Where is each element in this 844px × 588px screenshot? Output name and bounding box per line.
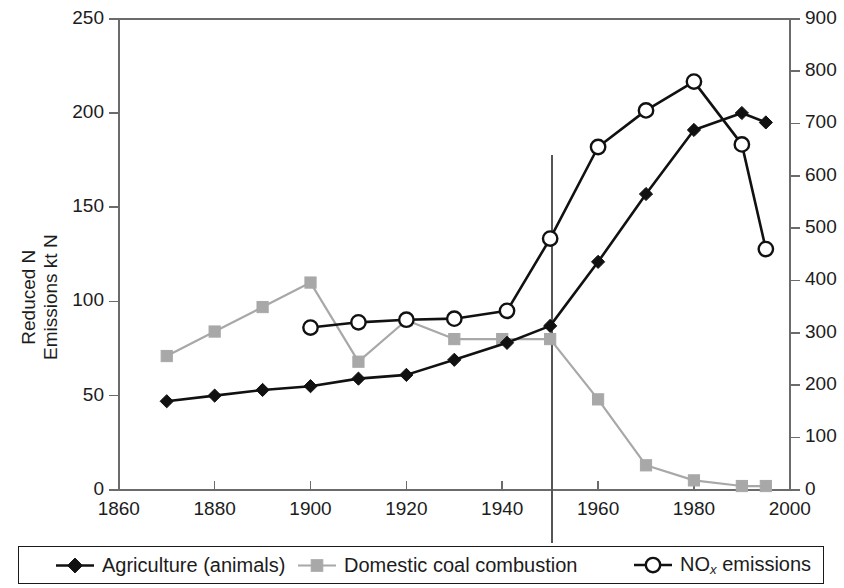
legend-item-2[interactable]: Domestic coal combustion [297, 554, 577, 577]
series-agriculture-animals [160, 106, 772, 407]
legend-item-label: NOx emissions [680, 553, 811, 577]
marker-square [449, 333, 460, 344]
marker-diamond [256, 383, 269, 396]
marker-diamond [160, 395, 173, 408]
series-line [167, 113, 766, 401]
series-domestic-coal-combustion [161, 277, 771, 492]
legend-item-3[interactable]: NOx emissions [633, 553, 811, 577]
marker-circle [500, 304, 514, 318]
series-line [311, 82, 766, 328]
legend-marker-filled-diamond [55, 555, 95, 575]
marker-square [209, 326, 220, 337]
marker-diamond [400, 368, 413, 381]
marker-square [257, 301, 268, 312]
legend-item-label: Domestic coal combustion [344, 554, 577, 577]
legend-marker-open-circle [633, 555, 673, 575]
marker-circle [543, 231, 557, 245]
marker-diamond [759, 116, 772, 129]
legend-item-label: Agriculture (animals) [102, 554, 285, 577]
marker-square [760, 480, 771, 491]
marker-square [640, 460, 651, 471]
marker-square [688, 475, 699, 486]
marker-circle [447, 311, 461, 325]
marker-square [305, 277, 316, 288]
marker-circle [735, 137, 749, 151]
marker-diamond [448, 353, 461, 366]
marker-square [545, 333, 556, 344]
chart-figure: Reduced N Emissions kt N 050100150200250… [0, 0, 844, 588]
marker-circle [759, 242, 773, 256]
marker-diamond [352, 372, 365, 385]
marker-square [161, 350, 172, 361]
marker-diamond [735, 106, 748, 119]
series-nox-emissions [303, 74, 773, 334]
marker-circle [399, 313, 413, 327]
legend-item-1[interactable]: Agriculture (animals) [55, 554, 285, 577]
marker-square [736, 480, 747, 491]
legend-marker-filled-square [297, 555, 337, 575]
marker-square [353, 356, 364, 367]
marker-circle [687, 74, 701, 88]
marker-diamond [304, 380, 317, 393]
marker-circle [639, 103, 653, 117]
legend: Agriculture (animals)Domestic coal combu… [18, 546, 824, 584]
data-series-layer [0, 0, 844, 588]
marker-circle [351, 315, 365, 329]
marker-square [592, 394, 603, 405]
marker-diamond [208, 389, 221, 402]
marker-circle [303, 320, 317, 334]
marker-circle [591, 140, 605, 154]
